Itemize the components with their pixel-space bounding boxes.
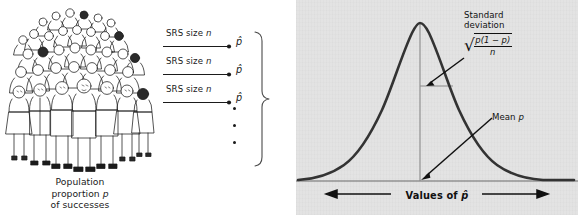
srs-arrow-2 xyxy=(163,70,234,79)
population-caption-line-2-prefix: proportion xyxy=(51,188,102,199)
std-dev-numerator: p(1 − p) xyxy=(474,35,512,47)
srs-label-3-prefix: SRS size xyxy=(166,84,206,94)
population-panel: Population proportion p of successes xyxy=(0,0,160,223)
population-caption-line-1: Population xyxy=(0,176,160,188)
sampling-distribution-figure: Population proportion p of successes SRS… xyxy=(0,0,588,223)
continuation-dot-3 xyxy=(233,141,236,144)
right-curly-brace xyxy=(252,30,274,168)
x-axis-label: Values of p̂ xyxy=(296,190,578,201)
std-dev-fraction: p(1 − p)n xyxy=(474,33,512,57)
std-dev-annotation-line-1: Standard xyxy=(464,10,504,20)
srs-size-symbol-2: n xyxy=(206,56,212,66)
srs-size-symbol-1: n xyxy=(206,28,212,38)
continuation-dot-1 xyxy=(233,107,236,110)
std-dev-leader-line xyxy=(426,58,464,86)
srs-arrow-1 xyxy=(163,42,234,51)
mean-annotation-prefix: Mean xyxy=(492,112,518,122)
srs-arrow-3 xyxy=(163,98,234,107)
x-axis-label-prefix: Values of xyxy=(406,190,462,201)
continuation-dots xyxy=(230,107,242,151)
srs-label-2-prefix: SRS size xyxy=(166,56,206,66)
continuation-dot-2 xyxy=(233,124,236,127)
srs-label-1: SRS size n xyxy=(166,28,211,38)
srs-sampling-panel: SRS size n p̂ SRS size n p̂ SRS size n p… xyxy=(160,0,296,223)
srs-row-2: SRS size n p̂ xyxy=(160,56,296,86)
sample-proportion-2: p̂ xyxy=(236,64,242,75)
std-dev-denominator: n xyxy=(474,47,512,58)
sampling-distribution-panel: Standard deviation √p(1 − p)n Mean p Val… xyxy=(296,0,578,215)
mean-symbol: p xyxy=(518,112,524,122)
normal-distribution-curve xyxy=(298,23,574,180)
std-dev-annotation-line-2: deviation xyxy=(464,20,504,30)
srs-row-3: SRS size n p̂ xyxy=(160,84,296,114)
sample-proportion-3: p̂ xyxy=(236,92,242,103)
population-caption-line-3: of successes xyxy=(0,199,160,211)
x-axis-phat-symbol: p̂ xyxy=(461,190,468,201)
crowd-of-people-illustration xyxy=(4,6,156,174)
srs-size-symbol-3: n xyxy=(206,84,212,94)
srs-label-3: SRS size n xyxy=(166,84,211,94)
std-dev-formula: √p(1 − p)n xyxy=(464,33,512,59)
population-proportion-symbol: p xyxy=(103,188,109,199)
srs-label-1-prefix: SRS size xyxy=(166,28,206,38)
normal-curve-plot xyxy=(296,0,578,215)
population-caption-line-2: proportion p xyxy=(0,188,160,200)
mean-annotation: Mean p xyxy=(492,112,524,122)
sample-proportion-1: p̂ xyxy=(236,36,242,47)
srs-label-2: SRS size n xyxy=(166,56,211,66)
population-caption: Population proportion p of successes xyxy=(0,176,160,211)
std-dev-annotation: Standard deviation xyxy=(464,10,504,31)
srs-row-1: SRS size n p̂ xyxy=(160,28,296,58)
